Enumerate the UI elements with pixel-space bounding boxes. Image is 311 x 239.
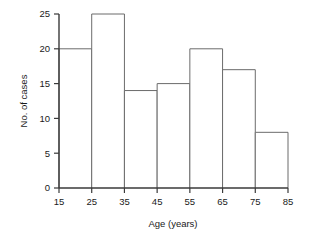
y-axis-tick-label: 10 bbox=[39, 113, 50, 124]
histogram-bar bbox=[157, 84, 190, 188]
histogram-bar bbox=[92, 14, 125, 188]
histogram-bar bbox=[190, 49, 223, 188]
histogram-plot: 0510152025 1525354555657585 Age (years) … bbox=[0, 0, 311, 239]
y-axis-tick-label: 25 bbox=[39, 8, 50, 19]
x-axis-tick-label: 55 bbox=[185, 196, 196, 207]
y-axis-tick-label: 15 bbox=[39, 78, 50, 89]
histogram-bar bbox=[223, 70, 256, 188]
histogram-bar bbox=[124, 91, 157, 188]
x-axis-tick-label: 35 bbox=[119, 196, 130, 207]
y-axis-title: No. of cases bbox=[18, 74, 29, 127]
x-axis-title: Age (years) bbox=[148, 218, 197, 229]
y-axis-tick-label: 5 bbox=[45, 148, 50, 159]
histogram-bar bbox=[255, 132, 288, 188]
y-axis-tick-label: 20 bbox=[39, 43, 50, 54]
x-axis-tick-label: 45 bbox=[152, 196, 163, 207]
x-axis-tick-label: 65 bbox=[217, 196, 228, 207]
x-axis-tick-label: 75 bbox=[250, 196, 261, 207]
histogram-bar bbox=[59, 49, 92, 188]
y-axis-tick-label: 0 bbox=[45, 182, 50, 193]
x-axis-tick-label: 25 bbox=[86, 196, 97, 207]
histogram-figure: 0510152025 1525354555657585 Age (years) … bbox=[0, 0, 311, 239]
x-axis-tick-label: 15 bbox=[54, 196, 65, 207]
x-axis-tick-label: 85 bbox=[283, 196, 294, 207]
